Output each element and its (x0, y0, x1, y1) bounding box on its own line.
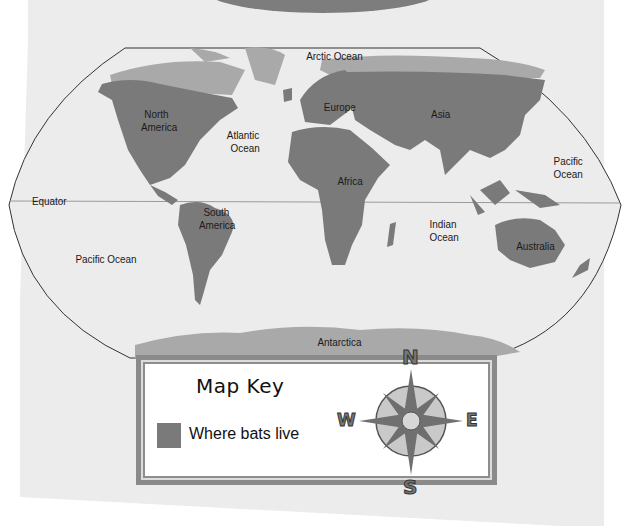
label-atlantic-line1: Atlantic (227, 129, 259, 142)
label-africa: Africa (337, 175, 362, 188)
label-pacific-east-line1: Pacific (554, 155, 583, 168)
label-indian-line2: Ocean (430, 231, 459, 244)
map-key-title: Map Key (196, 374, 284, 398)
label-south-america-line2: America (199, 219, 235, 232)
label-indian-line1: Indian (429, 218, 456, 231)
label-europe: Europe (324, 101, 356, 114)
label-south-america-line1: South (203, 206, 229, 219)
compass-west-letter: W (337, 410, 356, 430)
label-pacific-east-line2: Ocean (554, 168, 583, 181)
label-australia: Australia (516, 240, 555, 253)
label-north-america-line1: North (144, 108, 168, 121)
compass-center (402, 412, 420, 430)
compass-east-letter: E (466, 410, 478, 430)
compass-south-letter: S (403, 475, 417, 499)
label-north-america-line2: America (141, 121, 177, 134)
label-atlantic-line2: Ocean (231, 142, 260, 155)
label-pacific-west: Pacific Ocean (75, 253, 136, 266)
label-arctic-ocean: Arctic Ocean (306, 50, 363, 63)
legend-label-bat-habitat: Where bats live (189, 425, 299, 443)
label-asia: Asia (431, 108, 450, 121)
bat-range-map-page: Arctic Ocean North America Europe Asia A… (0, 0, 625, 526)
label-antarctica: Antarctica (317, 336, 361, 349)
compass-north-letter: N (402, 345, 419, 369)
legend-swatch-bat-habitat (157, 423, 181, 448)
label-equator: Equator (32, 195, 67, 208)
